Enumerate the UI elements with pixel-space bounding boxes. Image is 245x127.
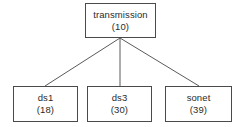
- node-sonet-label: sonet: [187, 92, 211, 104]
- node-ds3-count: (30): [111, 104, 128, 116]
- node-ds1-count: (18): [37, 104, 54, 116]
- node-transmission-count: (10): [112, 21, 129, 33]
- edge-transmission-to-ds1: [45, 38, 120, 86]
- edge-transmission-to-sonet: [120, 38, 199, 86]
- node-transmission[interactable]: transmission (10): [85, 3, 156, 38]
- node-transmission-label: transmission: [93, 9, 148, 21]
- tree-diagram: transmission (10) ds1 (18) ds3 (30) sone…: [0, 0, 245, 127]
- node-sonet-count: (39): [190, 104, 207, 116]
- node-ds3-label: ds3: [112, 92, 128, 104]
- node-sonet[interactable]: sonet (39): [165, 86, 232, 122]
- node-ds3[interactable]: ds3 (30): [87, 86, 152, 122]
- node-ds1-label: ds1: [38, 92, 54, 104]
- node-ds1[interactable]: ds1 (18): [13, 86, 78, 122]
